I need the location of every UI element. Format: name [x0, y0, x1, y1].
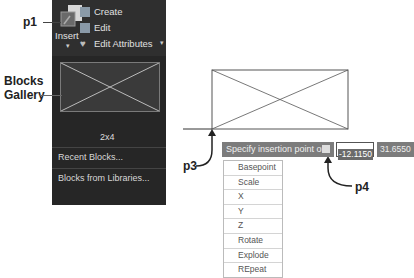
- prompt-text: Specify insertion point or: [226, 144, 325, 154]
- option-basepoint[interactable]: Basepoint: [224, 161, 282, 176]
- option-rotate[interactable]: Rotate: [224, 234, 282, 249]
- callout-p4: p4: [355, 180, 369, 194]
- dynamic-input-prompt: Specify insertion point or: [222, 142, 334, 157]
- option-explode[interactable]: Explode: [224, 249, 282, 264]
- y-value: 31.6550: [380, 144, 411, 154]
- x-coordinate-input[interactable]: -12.1150: [336, 142, 374, 157]
- x-value: -12.1150: [338, 149, 373, 160]
- insert-options-menu: Basepoint Scale X Y Z Rotate Explode REp…: [223, 160, 283, 278]
- option-repeat[interactable]: REpeat: [224, 263, 282, 277]
- option-scale[interactable]: Scale: [224, 176, 282, 191]
- option-x[interactable]: X: [224, 190, 282, 205]
- options-down-arrow-icon[interactable]: [322, 145, 330, 153]
- y-coordinate-input[interactable]: 31.6550: [377, 142, 414, 157]
- option-y[interactable]: Y: [224, 205, 282, 220]
- option-z[interactable]: Z: [224, 219, 282, 234]
- callout-p3: p3: [183, 159, 197, 173]
